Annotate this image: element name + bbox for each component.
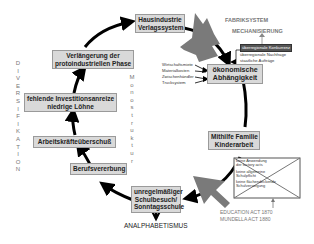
box-arbeitskraefte-line-1: Arbeitskräfteüberschuß bbox=[36, 138, 113, 146]
diversifikation-letter: K bbox=[14, 128, 22, 136]
diversifikation-letter: V bbox=[14, 75, 22, 83]
diversifikation-letter: R bbox=[14, 90, 22, 98]
monostruktur-letter: t bbox=[128, 112, 136, 120]
education-acts: EDUCATION ACT 1870 MUNDELLA ACT 1880 bbox=[220, 209, 273, 223]
box-hausindustrie-line-2: Verlagssystem bbox=[138, 24, 182, 32]
box-mithilfe-line-1: Mithilfe Familie bbox=[211, 133, 257, 141]
label-monostruktur: M o n o s t r u k t u r bbox=[128, 74, 136, 165]
diversifikation-letter: F bbox=[14, 113, 22, 121]
diversifikation-letter: I bbox=[14, 68, 22, 76]
market-nachfrage: überregionale Nachfrage bbox=[240, 52, 292, 58]
monostruktur-letter: u bbox=[128, 127, 136, 135]
diversifikation-letter: I bbox=[14, 106, 22, 114]
box-verlaengerung-line-1: Verlängerung der bbox=[55, 52, 131, 60]
box-berufsvererbung-line-1: Berufsvererbung bbox=[73, 165, 124, 173]
box-arbeitskraefteueberschuss: Arbeitskräfteüberschuß bbox=[33, 136, 116, 148]
arrow-oekonomisch-to-mithilfe bbox=[243, 80, 246, 127]
diversifikation-letter: E bbox=[14, 83, 22, 91]
diversifikation-letter: I bbox=[14, 151, 22, 159]
box-berufsvererbung: Berufsvererbung bbox=[70, 163, 127, 175]
monostruktur-letter: r bbox=[128, 120, 136, 128]
monostruktur-letter: k bbox=[128, 135, 136, 143]
mundella-act-1880: MUNDELLA ACT 1880 bbox=[220, 216, 273, 223]
markets-list: überregionale Konkurrenz überregionale N… bbox=[240, 44, 292, 63]
box-schulbesuch-line-2: Schulbesuch/ bbox=[134, 196, 178, 204]
box-investition-line-1: fehlende Investitionsanreize bbox=[27, 95, 114, 103]
market-konkurrenz: überregionale Konkurrenz bbox=[240, 44, 292, 52]
diversifikation-letter: O bbox=[14, 159, 22, 167]
diversifikation-letter: N bbox=[14, 166, 22, 174]
box-fehlende-investitionsanreize: fehlende Investitionsanreize niedrige Lö… bbox=[24, 93, 117, 112]
diversifikation-letter: I bbox=[14, 121, 22, 129]
big-gray-arrow-fabriksystem bbox=[180, 13, 220, 62]
arrow-investition-to-verlaengerung bbox=[74, 70, 83, 93]
monostruktur-letter: s bbox=[128, 104, 136, 112]
monostruktur-letter: r bbox=[128, 158, 136, 166]
box-investition-line-2: niedrige Löhne bbox=[27, 103, 114, 111]
school-crossed-text: keine Anwendung der factory acts keine a… bbox=[236, 159, 276, 189]
monostruktur-letter: n bbox=[128, 89, 136, 97]
box-schulbesuch-line-1: unregelmäßiger bbox=[134, 188, 178, 196]
box-mithilfe-line-2: Kinderarbeit bbox=[211, 141, 257, 149]
label-diversifikation: D I V E R S I F I K A T I O N bbox=[14, 60, 22, 174]
box-oekonomisch-line-1: ökonomische bbox=[210, 66, 260, 74]
monostruktur-letter: u bbox=[128, 150, 136, 158]
box-oekonomisch-line-2: Abhängigkeit bbox=[210, 74, 260, 82]
arrow-schulbesuch-to-berufsvererbung bbox=[104, 185, 133, 200]
market-auftraege: staatliche Aufträge bbox=[240, 58, 292, 64]
diversifikation-letter: A bbox=[14, 136, 22, 144]
monostruktur-letter: o bbox=[128, 97, 136, 105]
school-item-3b: Schulversorgung bbox=[236, 184, 276, 188]
label-fabriksystem: FABRIKSYSTEM bbox=[225, 17, 268, 23]
label-analphabetismus: ANALPHABETISMUS bbox=[124, 222, 188, 229]
markets-connector bbox=[232, 50, 240, 64]
school-item-1b: der factory acts bbox=[236, 163, 276, 167]
education-act-1870: EDUCATION ACT 1870 bbox=[220, 209, 273, 216]
monostruktur-letter: o bbox=[128, 82, 136, 90]
cause-trucksystem: Trucksystem bbox=[162, 80, 194, 86]
box-schulbesuch-line-3: Sonntagsschule bbox=[134, 203, 178, 211]
box-hausindustrie: Hausindustrie Verlagssystem bbox=[135, 14, 185, 33]
school-item-2b: Schulpflicht bbox=[236, 174, 276, 178]
diversifikation-letter: T bbox=[14, 144, 22, 152]
box-mithilfe-familie: Mithilfe Familie Kinderarbeit bbox=[208, 131, 260, 150]
box-oekonomische-abhaengigkeit: ökonomische Abhängigkeit bbox=[207, 64, 263, 84]
label-mechanisierung: MECHANISIERUNG bbox=[232, 28, 283, 34]
monostruktur-letter: M bbox=[128, 74, 136, 82]
box-hausindustrie-line-1: Hausindustrie bbox=[138, 16, 182, 24]
arrow-verlaengerung-to-hausindustrie bbox=[85, 22, 130, 47]
monostruktur-letter: t bbox=[128, 142, 136, 150]
dependency-causes-list: Wirtschaftsmiete Materialkosten Zwischen… bbox=[162, 62, 194, 86]
diversifikation-letter: S bbox=[14, 98, 22, 106]
box-schulbesuch: unregelmäßiger Schulbesuch/ Sonntagsschu… bbox=[131, 186, 181, 213]
box-verlaengerung: Verlängerung der protoindustriellen Phas… bbox=[52, 50, 134, 69]
box-verlaengerung-line-2: protoindustriellen Phase bbox=[55, 60, 131, 68]
arrow-arbeitskraefte-to-investition bbox=[73, 113, 75, 135]
diversifikation-letter: D bbox=[14, 60, 22, 68]
